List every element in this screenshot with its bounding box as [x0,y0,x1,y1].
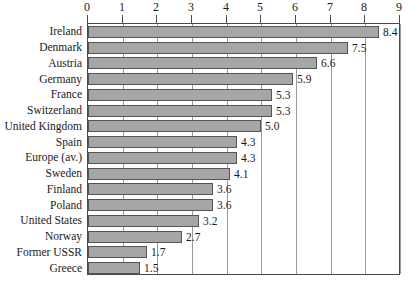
x-tick-mark [330,15,331,23]
category-label-smallcaps: USSR [53,246,82,258]
bar-row: 7.5 [88,42,399,54]
x-tick-mark [156,15,157,23]
bar-row: 3.6 [88,199,399,211]
bar-row: 3.6 [88,183,399,195]
category-label: Germany [39,73,82,85]
x-tick-mark [87,15,88,23]
bar[interactable] [88,262,140,274]
category-label: Austria [48,57,82,69]
plot-area: 8.47.56.65.95.35.35.04.34.34.13.63.63.22… [87,23,400,275]
bar-row: 6.6 [88,57,399,69]
x-tick-mark [295,15,296,23]
bar[interactable] [88,215,199,227]
bar-value-label: 7.5 [352,42,366,54]
category-label: United States [20,214,82,226]
bar-row: 5.3 [88,89,399,101]
bar[interactable] [88,183,213,195]
x-tick-label: 1 [119,0,125,14]
bar-row: 5.0 [88,120,399,132]
x-tick-label: 2 [153,0,159,14]
bar-value-label: 3.6 [217,199,231,211]
x-tick-label: 4 [223,0,229,14]
bar[interactable] [88,73,293,85]
bar[interactable] [88,231,182,243]
bar[interactable] [88,26,379,38]
bar[interactable] [88,136,237,148]
bar-row: 5.9 [88,73,399,85]
x-tick-mark [399,15,400,23]
category-label: Ireland [49,25,82,37]
bar[interactable] [88,168,230,180]
bar-row: 8.4 [88,26,399,38]
bar-value-label: 1.7 [151,246,165,258]
bar[interactable] [88,246,147,258]
bar-value-label: 1.5 [144,262,158,274]
bar-value-label: 4.1 [234,168,248,180]
category-label: Norway [45,230,82,242]
bar-row: 1.7 [88,246,399,258]
category-label: Greece [49,262,82,274]
bar-value-label: 6.6 [321,57,335,69]
bar[interactable] [88,57,317,69]
x-tick-label: 9 [396,0,402,14]
bar-row: 2.7 [88,231,399,243]
bar-value-label: 8.4 [383,26,397,38]
x-tick-label: 0 [84,0,90,14]
bar-value-label: 3.6 [217,183,231,195]
category-label: Former USSR [16,246,82,258]
bar[interactable] [88,89,272,101]
x-tick-mark [226,15,227,23]
bar[interactable] [88,199,213,211]
bar-row: 4.3 [88,136,399,148]
gridline [400,24,401,274]
bar[interactable] [88,42,348,54]
category-label: Spain [56,136,82,148]
x-axis-tick-labels: 0123456789 [87,0,400,15]
bar-value-label: 2.7 [186,231,200,243]
bar-value-label: 5.0 [265,120,279,132]
bar-value-label: 5.3 [276,105,290,117]
bar-row: 1.5 [88,262,399,274]
bar-value-label: 3.2 [203,215,217,227]
category-label: Denmark [39,41,82,53]
category-label: France [51,88,82,100]
bar-value-label: 5.3 [276,89,290,101]
x-axis-tickmarks [87,15,400,23]
x-tick-label: 7 [327,0,333,14]
bar-row: 4.1 [88,168,399,180]
bar-chart: 0123456789 IrelandDenmarkAustriaGermanyF… [0,0,412,287]
x-tick-mark [122,15,123,23]
bar[interactable] [88,152,237,164]
bar[interactable] [88,120,261,132]
category-label: Sweden [46,167,82,179]
x-tick-mark [364,15,365,23]
x-tick-mark [260,15,261,23]
x-tick-mark [191,15,192,23]
x-tick-label: 6 [292,0,298,14]
x-tick-label: 3 [188,0,194,14]
category-label: Europe (av.) [25,151,82,163]
category-label: United Kingdom [4,120,82,132]
bar-row: 4.3 [88,152,399,164]
category-label: Poland [50,199,82,211]
bar-row: 3.2 [88,215,399,227]
category-label: Switzerland [27,104,82,116]
bar-value-label: 4.3 [241,136,255,148]
x-tick-label: 5 [257,0,263,14]
bar[interactable] [88,105,272,117]
x-tick-label: 8 [361,0,367,14]
category-axis-labels: IrelandDenmarkAustriaGermanyFranceSwitze… [0,23,86,275]
bar-value-label: 5.9 [297,73,311,85]
bar-row: 5.3 [88,105,399,117]
bar-value-label: 4.3 [241,152,255,164]
category-label: Finland [47,183,82,195]
